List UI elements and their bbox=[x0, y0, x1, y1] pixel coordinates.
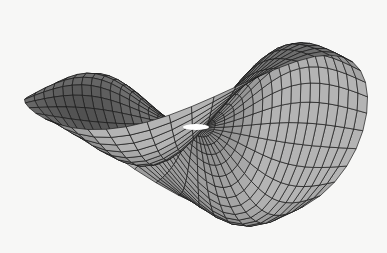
mesh-face bbox=[72, 77, 83, 85]
mesh-face bbox=[309, 67, 320, 83]
surface-plot bbox=[0, 0, 387, 253]
mesh-face bbox=[72, 85, 82, 96]
mesh-face bbox=[300, 83, 310, 102]
center-highlight bbox=[183, 124, 209, 130]
surface-mesh bbox=[25, 43, 368, 227]
mesh-face bbox=[300, 67, 311, 84]
mesh-face bbox=[338, 87, 348, 108]
mesh-face bbox=[291, 84, 301, 104]
mesh-face bbox=[82, 77, 93, 85]
mesh-face bbox=[310, 83, 320, 103]
mesh-face bbox=[319, 83, 329, 104]
mesh-face bbox=[329, 85, 339, 106]
mesh-face bbox=[82, 85, 92, 96]
mesh-face bbox=[91, 86, 101, 98]
mesh-face bbox=[63, 85, 73, 96]
